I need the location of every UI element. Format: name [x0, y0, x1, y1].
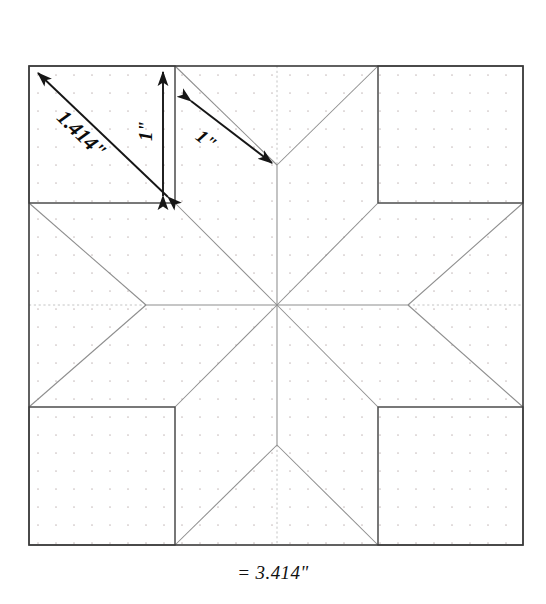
star-block-diagram	[0, 0, 546, 604]
total-dimension-label: = 3.414"	[0, 562, 546, 584]
figure-canvas: 1.00" + 1.414" + 1.00"	[0, 0, 546, 604]
label-corner-side-vertical: 1"	[135, 121, 157, 141]
